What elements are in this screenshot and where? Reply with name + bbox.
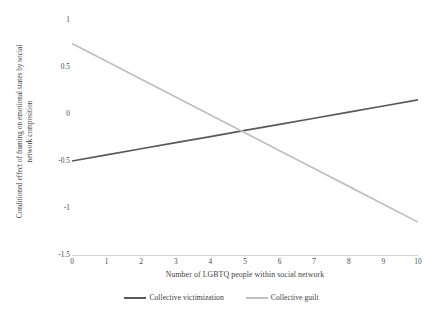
x-tick-label: 9 [373, 257, 393, 266]
legend-swatch [124, 297, 146, 299]
x-tick-label: 2 [131, 257, 151, 266]
x-tick-label: 7 [304, 257, 324, 266]
x-tick-label: 1 [97, 257, 117, 266]
y-tick-label: -1 [40, 204, 70, 212]
y-axis-tick-labels: 10.50-0.5-1-1.5 [38, 0, 70, 320]
y-tick-label: -0.5 [40, 157, 70, 165]
x-axis-title: Number of LGBTQ people within social net… [72, 270, 418, 279]
y-axis-title-text: Conditioned effect of framing on emotion… [17, 44, 36, 218]
x-tick-label: 6 [270, 257, 290, 266]
legend-item: Collective victimization [124, 293, 223, 302]
series-line [72, 100, 418, 161]
y-tick-label: 0.5 [40, 63, 70, 71]
series-canvas [72, 20, 418, 255]
x-tick-label: 10 [408, 257, 428, 266]
y-tick-label: 0 [40, 110, 70, 118]
x-axis-tick-labels: 012345678910 [0, 257, 443, 269]
legend-item: Collective guilt [246, 293, 319, 302]
x-tick-label: 8 [339, 257, 359, 266]
legend-label: Collective guilt [271, 293, 319, 302]
series-line [72, 44, 418, 223]
y-axis-title-line-1: Conditioned effect of framing on emotion… [17, 44, 27, 218]
y-axis-title-line-2: network composition [26, 44, 36, 218]
y-tick-label: 1 [40, 16, 70, 24]
x-tick-label: 5 [235, 257, 255, 266]
x-tick-label: 4 [200, 257, 220, 266]
x-tick-label: 0 [62, 257, 82, 266]
x-tick-label: 3 [166, 257, 186, 266]
x-axis-line [72, 255, 418, 256]
plot-area [72, 20, 418, 255]
chart-figure: Conditioned effect of framing on emotion… [0, 0, 443, 320]
legend-swatch [246, 297, 268, 299]
legend-label: Collective victimization [149, 293, 223, 302]
chart-legend: Collective victimizationCollective guilt [0, 293, 443, 302]
